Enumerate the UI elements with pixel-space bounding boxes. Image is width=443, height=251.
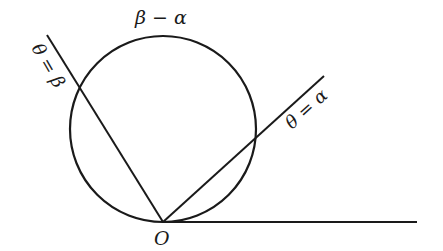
polar-diagram: β − α θ = β θ = α O <box>0 0 443 251</box>
ray-theta-beta <box>47 35 163 222</box>
origin-label: O <box>154 227 170 249</box>
ray-theta-alpha <box>163 76 324 222</box>
circle <box>70 36 256 222</box>
ray-beta-label: θ = β <box>28 40 70 92</box>
arc-label: β − α <box>134 6 187 28</box>
